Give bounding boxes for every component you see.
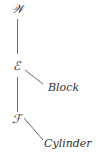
node-e: ℰ (13, 60, 20, 73)
leaf-cylinder: Cylinder (44, 138, 92, 150)
node-w: 𝒲 (11, 3, 24, 16)
node-f: ℱ (12, 113, 21, 126)
edge-e-block (25, 70, 43, 84)
tree-edges (0, 0, 100, 156)
edge-f-cylinder (24, 118, 43, 140)
leaf-block: Block (48, 82, 79, 94)
